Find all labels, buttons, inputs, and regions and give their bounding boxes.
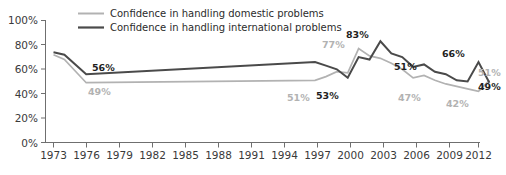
y-axis-label-0: 0%: [21, 137, 38, 149]
x-axis-label-2012: 2012: [465, 149, 492, 161]
chart-container: 100% 80% 60% 40% 20% 0% 1973 1976: [0, 0, 506, 175]
y-axis-label-60: 60%: [15, 63, 38, 75]
legend-label-international: Confidence in handling international pro…: [110, 22, 342, 33]
legend-label-domestic: Confidence in handling domestic problems: [110, 8, 324, 19]
x-axis-label-1982: 1982: [139, 149, 166, 161]
x-axis-label-2006: 2006: [403, 149, 430, 161]
line-chart: 100% 80% 60% 40% 20% 0% 1973 1976: [0, 0, 506, 175]
x-axis-label-1991: 1991: [238, 149, 265, 161]
x-axis-label-1988: 1988: [205, 149, 232, 161]
y-axis-group: 100% 80% 60% 40% 20% 0%: [8, 14, 46, 149]
x-axis-label-1976: 1976: [73, 149, 100, 161]
y-axis-label-80: 80%: [15, 39, 38, 51]
x-axis-label-1985: 1985: [172, 149, 199, 161]
x-axis-group: 1973 1976 1979 1982 1985 1988 1991 1994 …: [40, 143, 492, 162]
series-lines-group: [54, 41, 490, 91]
x-axis-label-2000: 2000: [337, 149, 364, 161]
data-label-international-2003: 83%: [346, 29, 369, 40]
data-label-domestic-1997: 51%: [287, 92, 310, 103]
x-axis-label-1994: 1994: [271, 149, 298, 161]
series-line-international: [54, 41, 490, 82]
data-label-domestic-2008: 47%: [398, 92, 421, 103]
legend: Confidence in handling domestic problems…: [78, 8, 342, 33]
data-label-domestic-2013: 51%: [478, 67, 501, 78]
data-label-international-2006: 51%: [394, 61, 417, 72]
data-label-domestic-2001: 77%: [322, 39, 345, 50]
x-axis-label-1979: 1979: [106, 149, 133, 161]
y-axis-label-40: 40%: [15, 88, 38, 100]
x-axis-label-1997: 1997: [304, 149, 331, 161]
y-axis-label-20: 20%: [15, 112, 38, 124]
x-axis-label-2003: 2003: [370, 149, 397, 161]
data-label-international-1976: 56%: [92, 62, 115, 73]
data-labels-group: 56% 49% 51% 53% 77% 83% 51% 47% 66% 42% …: [88, 29, 501, 109]
data-label-international-2000: 53%: [316, 90, 339, 101]
y-axis-label-100: 100%: [8, 14, 38, 26]
x-axis-label-2009: 2009: [436, 149, 463, 161]
data-label-international-2013: 49%: [478, 81, 501, 92]
data-label-domestic-1976: 49%: [88, 86, 111, 97]
data-label-domestic-2012: 42%: [446, 98, 469, 109]
series-line-domestic: [54, 49, 490, 92]
x-axis-label-1973: 1973: [40, 149, 67, 161]
data-label-international-2012: 66%: [442, 48, 465, 59]
